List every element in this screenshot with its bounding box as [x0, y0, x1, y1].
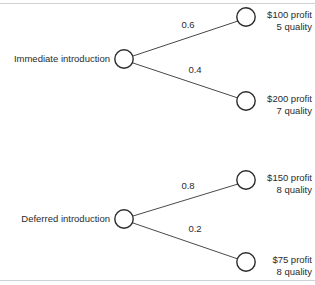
outcome-label-deferred-upper: $150 profit 8 quality	[200, 172, 312, 195]
probability-label-immediate-lower: 0.4	[180, 64, 210, 76]
outcome-quality-deferred-upper: 8 quality	[200, 184, 312, 196]
tree-graphics	[0, 0, 315, 285]
root-label-immediate: Immediate introduction	[0, 53, 110, 65]
outcome-quality-deferred-lower: 8 quality	[200, 266, 312, 278]
outcome-label-deferred-lower: $75 profit 8 quality	[200, 254, 312, 277]
outcome-quality-immediate-lower: 7 quality	[200, 105, 312, 117]
probability-label-immediate-upper: 0.6	[173, 19, 203, 31]
probability-label-deferred-lower: 0.2	[180, 223, 210, 235]
outcome-profit-deferred-lower: $75 profit	[200, 254, 312, 266]
outcome-label-immediate-upper: $100 profit 5 quality	[200, 9, 312, 32]
probability-label-deferred-upper: 0.8	[173, 180, 203, 192]
outcome-quality-immediate-upper: 5 quality	[200, 21, 312, 33]
root-node-immediate[interactable]	[115, 50, 133, 68]
root-node-deferred[interactable]	[115, 210, 133, 228]
decision-tree-diagram: Immediate introduction 0.6 0.4 $100 prof…	[0, 0, 315, 285]
root-label-deferred: Deferred introduction	[0, 213, 110, 225]
outcome-label-immediate-lower: $200 profit 7 quality	[200, 93, 312, 116]
outcome-profit-immediate-upper: $100 profit	[200, 9, 312, 21]
outcome-profit-immediate-lower: $200 profit	[200, 93, 312, 105]
outcome-profit-deferred-upper: $150 profit	[200, 172, 312, 184]
